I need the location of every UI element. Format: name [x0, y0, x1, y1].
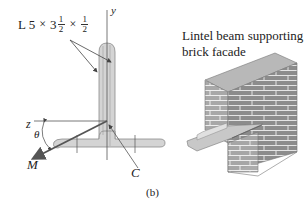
- moment-label: M: [27, 157, 38, 173]
- fraction-numerator: 1: [83, 15, 88, 24]
- times-symbol: ×: [39, 17, 46, 32]
- brick-wall-illustration: [187, 53, 297, 176]
- times-symbol: ×: [70, 17, 77, 32]
- theta-arc: [42, 122, 51, 150]
- section-prefix: L 5: [18, 17, 35, 33]
- theta-label: θ: [34, 128, 39, 140]
- fraction-denominator: 2: [83, 25, 88, 34]
- fraction-1: 1 2: [58, 15, 65, 34]
- illustration-title-line-2: brick facade: [182, 44, 303, 60]
- illustration-title-line-1: Lintel beam supporting: [182, 28, 303, 44]
- y-axis-label: y: [111, 4, 116, 16]
- z-axis-label: z: [26, 117, 31, 132]
- section-designation: L 5 × 3 1 2 × 1 2: [18, 15, 89, 34]
- section-whole: 3: [50, 17, 57, 33]
- illustration-title: Lintel beam supporting brick facade: [182, 28, 303, 60]
- fraction-numerator: 1: [59, 15, 64, 24]
- angle-section: [54, 43, 166, 153]
- fraction-2: 1 2: [81, 15, 88, 34]
- figure-caption: (b): [146, 186, 159, 198]
- centroid-label: C: [131, 165, 140, 181]
- fraction-denominator: 2: [59, 25, 64, 34]
